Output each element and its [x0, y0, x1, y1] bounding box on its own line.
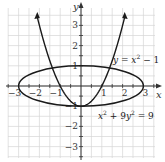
x-tick-label: 1 — [101, 88, 107, 98]
x-tick-label: −2 — [29, 88, 42, 98]
y-axis-label: y — [72, 1, 79, 12]
y-tick-label: −2 — [65, 121, 78, 131]
x-tick-label: −1 — [50, 88, 63, 98]
x-tick-label: 2 — [122, 88, 128, 98]
y-tick-label: 2 — [72, 41, 78, 51]
parabola-equation-label: y = x2 − 1 — [112, 53, 159, 65]
x-axis-label: x — [156, 89, 162, 100]
ellipse-equation-label: x2 + 9y2 = 9 — [98, 109, 154, 121]
y-axis-arrow-icon — [79, 2, 84, 8]
x-tick-label: 3 — [143, 88, 149, 98]
x-axis-arrow-icon — [156, 84, 162, 89]
y-tick-label: 3 — [72, 20, 78, 30]
graph: −3−2−1123−3−2−1123 x y y = x2 − 1 x2 + 9… — [0, 0, 165, 162]
y-tick-label: −3 — [65, 142, 79, 152]
